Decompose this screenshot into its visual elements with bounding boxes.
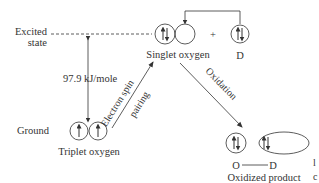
spin-pairing-label-line2: pairing bbox=[127, 89, 151, 119]
donor-orbital bbox=[231, 25, 249, 43]
energy-gap-label: 97.9 kJ/mole bbox=[63, 73, 118, 84]
oxidized-product-label: Oxidized product bbox=[227, 172, 300, 183]
donor-label: D bbox=[236, 50, 244, 61]
spin-pairing-label: Electron spin bbox=[98, 78, 135, 129]
singlet-oxygen-diagram: Excited state 97.9 kJ/mole Ground Triple… bbox=[0, 0, 319, 183]
bond-atom-o: O bbox=[232, 160, 240, 171]
electron-transfer-arrow bbox=[185, 11, 240, 24]
oxidized-product-orbitals bbox=[226, 132, 309, 154]
orbital-circle-icon bbox=[155, 24, 175, 44]
empty-orbital-circle-icon bbox=[175, 24, 195, 44]
plus-sign: + bbox=[210, 29, 216, 40]
excited-state-label-line2: state bbox=[28, 37, 48, 48]
triplet-oxygen-label: Triplet oxygen bbox=[58, 146, 120, 157]
margin-mark-bottom: c bbox=[313, 171, 318, 182]
singlet-oxygen-orbitals bbox=[155, 24, 195, 44]
bond-atom-d: D bbox=[269, 160, 277, 171]
orbital-circle-icon bbox=[231, 25, 249, 43]
excited-state-label: Excited bbox=[15, 26, 48, 37]
orbital-circle-icon bbox=[226, 133, 246, 153]
orbital-ellipse-icon bbox=[259, 132, 309, 154]
margin-mark-top: l bbox=[313, 157, 316, 168]
ground-state-label: Ground bbox=[17, 125, 50, 136]
singlet-oxygen-label: Singlet oxygen bbox=[146, 49, 210, 60]
oxidation-label: Oxidation bbox=[204, 65, 240, 101]
